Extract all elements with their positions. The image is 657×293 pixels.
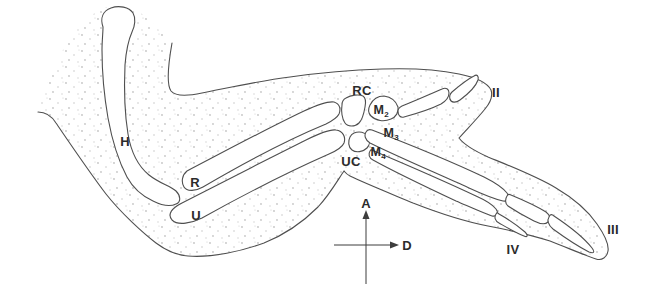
label-humerus: H [120, 135, 130, 148]
label-axis-distal: D [402, 239, 412, 252]
orientation-compass [334, 210, 399, 284]
label-metacarpal-4: M4 [370, 146, 385, 161]
label-digit-2: II [492, 86, 500, 99]
label-radius: R [190, 176, 200, 189]
wing-skeleton-drawing [0, 0, 657, 293]
label-digit-3: III [607, 223, 619, 236]
label-metacarpal-3: M3 [383, 127, 398, 142]
label-ulnar-carpal: UC [341, 155, 360, 168]
label-radial-carpal: RC [352, 84, 371, 97]
label-metacarpal-2: M2 [373, 104, 388, 119]
compass-arrow-right [390, 242, 399, 249]
label-ulna: U [191, 209, 201, 222]
label-axis-anterior: A [361, 197, 371, 210]
figure-canvas: H R U RC UC M2 M3 M4 II III IV A D [0, 0, 657, 293]
label-digit-4: IV [507, 243, 520, 256]
compass-arrow-up [363, 210, 370, 219]
